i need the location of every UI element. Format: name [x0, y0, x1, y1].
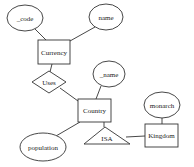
- entity-currency-label: Currency: [41, 49, 68, 57]
- entity-currency: Currency: [38, 40, 70, 64]
- connector-currency-uses: [50, 64, 52, 72]
- attribute-monarch-label: monarch: [150, 102, 175, 110]
- connector-name-country: [96, 86, 101, 99]
- connector-code-currency: [35, 29, 46, 40]
- entity-country-label: Country: [83, 107, 106, 115]
- attribute-country-name: _name: [93, 61, 125, 87]
- attribute-population: population: [20, 133, 66, 161]
- attribute-code-label: _code: [16, 15, 34, 23]
- entity-kingdom: Kingdom: [145, 124, 178, 147]
- attribute-country-name-label: _name: [99, 71, 119, 79]
- isa-triangle: ISA: [84, 127, 130, 144]
- connector-name-currency: [70, 27, 95, 41]
- connector-uses-country: [60, 88, 78, 101]
- connector-country-population: [56, 122, 80, 136]
- attribute-monarch: monarch: [144, 92, 180, 118]
- isa-label: ISA: [101, 135, 112, 143]
- er-diagram: _code name Currency Uses _name Country p…: [0, 0, 194, 167]
- attribute-code: _code: [7, 5, 43, 31]
- relationship-uses: Uses: [32, 71, 66, 93]
- relationship-uses-label: Uses: [42, 79, 56, 87]
- entity-country: Country: [78, 99, 111, 122]
- attribute-currency-name: name: [89, 4, 123, 30]
- attribute-population-label: population: [28, 144, 58, 152]
- attribute-currency-name-label: name: [98, 14, 113, 22]
- connector-isa-kingdom: [126, 136, 145, 137]
- entity-kingdom-label: Kingdom: [148, 132, 175, 140]
